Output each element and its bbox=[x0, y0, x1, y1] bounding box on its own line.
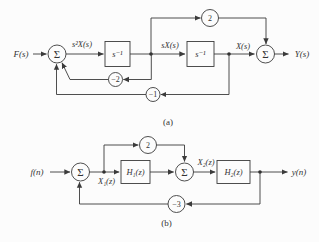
h1-block-label: H₁(z) bbox=[125, 167, 144, 177]
diagram-b: f(n) Σ X₁(z) H₁(z) Σ X₂(z) H₂(z) y(n) 2 … bbox=[31, 137, 307, 229]
caption-a: (a) bbox=[163, 117, 173, 127]
diagram-a: F(s) Σ s²X(s) s⁻¹ sX(s) s⁻¹ X(s) Σ Y(s) … bbox=[13, 10, 310, 128]
sum-symbol-a2: Σ bbox=[262, 48, 268, 60]
gain-neg3-label: −3 bbox=[172, 200, 181, 209]
figure-page: F(s) Σ s²X(s) s⁻¹ sX(s) s⁻¹ X(s) Σ Y(s) … bbox=[0, 0, 319, 242]
caption-b: (b) bbox=[161, 218, 172, 228]
signal-label-X: X(s) bbox=[235, 41, 250, 51]
signal-label-X2: X₂(z) bbox=[196, 157, 214, 167]
sum-symbol-b1: Σ bbox=[77, 166, 83, 178]
input-signal-label-b: f(n) bbox=[31, 167, 44, 177]
wire-gain-neg2-to-sum1 bbox=[62, 63, 109, 80]
sum-symbol-a1: Σ bbox=[54, 48, 60, 60]
gain-neg1-label: −1 bbox=[149, 90, 158, 99]
gain-neg2-label: −2 bbox=[111, 75, 120, 84]
output-signal-label-b: y(n) bbox=[291, 167, 307, 177]
gain-2-label-a: 2 bbox=[208, 14, 212, 23]
sum-symbol-b2: Σ bbox=[181, 166, 187, 178]
block-diagram-figure: F(s) Σ s²X(s) s⁻¹ sX(s) s⁻¹ X(s) Σ Y(s) … bbox=[0, 0, 319, 242]
signal-label-s2X: s²X(s) bbox=[72, 39, 92, 49]
integrator-block-2-label: s⁻¹ bbox=[195, 49, 206, 59]
wire-gain-neg3-to-sum1 bbox=[80, 182, 169, 204]
signal-label-X1: X₁(z) bbox=[97, 176, 115, 186]
signal-label-sX: sX(s) bbox=[161, 40, 179, 50]
output-signal-label-a: Y(s) bbox=[295, 49, 310, 59]
integrator-block-1-label: s⁻¹ bbox=[112, 49, 123, 59]
wire-gain2-to-sum2-b bbox=[157, 145, 185, 162]
h2-block-label: H₂(z) bbox=[223, 167, 242, 177]
input-signal-label-a: F(s) bbox=[13, 49, 29, 59]
gain-2-label-b: 2 bbox=[146, 141, 150, 150]
